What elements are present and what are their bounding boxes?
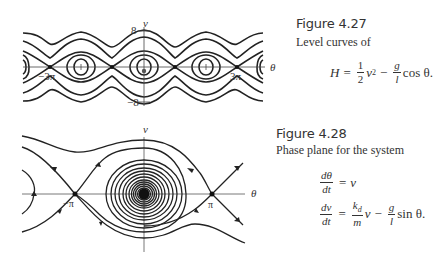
eq-lhs: H [330, 65, 339, 81]
frac-g-over-l: gl [388, 202, 396, 227]
eq-cos: cos θ. [403, 65, 433, 81]
frac-g-over-l: gl [393, 60, 401, 85]
figure-4-27-title: Figure 4.27 [296, 16, 367, 31]
y-tick-neg-8: −8 [127, 96, 139, 108]
frac-one-half: 12 [357, 60, 365, 85]
y-tick-8: 8 [131, 24, 137, 36]
phase-plane-plot: v −π π θ [0, 125, 270, 261]
eq-sign: = [343, 65, 350, 81]
equation-dv-dt: dvdt = kdm v − gl sin θ. [318, 200, 425, 228]
v-axis-label: v [143, 125, 148, 135]
frac-kd-over-m: kdm [352, 200, 363, 228]
eq-minus: − [374, 206, 381, 222]
eq-rhs-v: v [350, 175, 356, 191]
x-tick-3pi: 3π [230, 70, 242, 82]
figure-4-27: v 8 −8 −3π 3π θ [0, 0, 280, 129]
eq-sign: = [338, 206, 345, 222]
figure-4-27-caption: Level curves of [296, 35, 371, 50]
frac-dtheta-dt: dθdt [320, 170, 333, 195]
frac-dv-dt: dvdt [320, 202, 332, 227]
x-tick-neg-pi: −π [63, 198, 74, 209]
equation-dtheta-dt: dθdt = v [318, 170, 356, 195]
theta-axis-label: θ [270, 61, 276, 73]
figure-4-28-caption: Phase plane for the system [276, 143, 404, 158]
level-curves-plot: v 8 −8 −3π 3π θ [0, 0, 280, 125]
x-tick-neg-3pi: −3π [38, 70, 56, 82]
figure-4-28-title: Figure 4.28 [276, 126, 347, 141]
figure-4-28: v −π π θ [0, 125, 270, 261]
eq-sup: 2 [372, 68, 376, 77]
eq-minus: − [380, 65, 387, 81]
x-tick-pi: π [208, 199, 213, 210]
theta-axis-label: θ [251, 187, 257, 199]
eq-sign: = [339, 175, 346, 191]
v-axis-label: v [143, 17, 148, 29]
eq-v: v [365, 206, 371, 222]
eq-sin: sin θ. [397, 206, 425, 222]
hamiltonian-equation: H = 12 v2 − gl cos θ. [330, 60, 433, 85]
